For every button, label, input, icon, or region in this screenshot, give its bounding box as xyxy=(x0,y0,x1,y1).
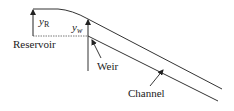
reservoir-weir-channel-diagram: yR yw Reservoir Weir Channel xyxy=(0,0,234,111)
channel-leader-arrow xyxy=(150,70,163,86)
yR-label: yR xyxy=(38,15,50,29)
water-surface-line xyxy=(33,9,222,89)
yw-label: yw xyxy=(71,21,83,35)
reservoir-label: Reservoir xyxy=(13,38,56,50)
weir-leader-arrow xyxy=(92,40,101,58)
weir-label: Weir xyxy=(97,60,118,72)
channel-label: Channel xyxy=(128,87,165,99)
